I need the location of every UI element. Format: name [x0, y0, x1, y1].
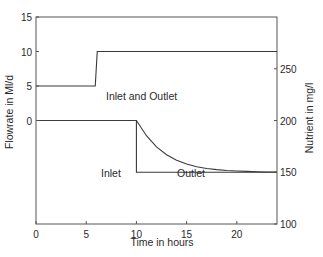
y-right-tick-label: 200 — [280, 116, 297, 127]
series-line-0 — [36, 52, 277, 87]
x-tick-label: 5 — [83, 229, 89, 240]
y-right-tick-label: 250 — [280, 64, 297, 75]
y-left-tick-label: 15 — [21, 12, 33, 23]
y-axis-label-right: Nutrient in mg/l — [303, 83, 315, 154]
x-axis-label: Time in hours — [130, 236, 193, 248]
ticks-layer: 05101520051015100150200250 — [21, 12, 297, 240]
dual-axis-line-chart: 05101520051015100150200250 Inlet and Out… — [0, 0, 323, 257]
annotation-outlet: Outlet — [177, 167, 205, 179]
y-left-tick-label: 5 — [26, 81, 32, 92]
annotation-inlet: Inlet — [101, 167, 121, 179]
y-left-tick-label: 10 — [21, 47, 33, 58]
y-axis-label-left: Flowrate in Ml/d — [3, 75, 15, 149]
y-right-tick-label: 150 — [280, 167, 297, 178]
x-tick-label: 0 — [33, 229, 39, 240]
series-line-2 — [136, 121, 277, 173]
annotation-inlet-and-outlet: Inlet and Outlet — [106, 90, 177, 102]
y-left-tick-label: 0 — [26, 116, 32, 127]
y-right-tick-label: 100 — [280, 219, 297, 230]
x-tick-label: 20 — [231, 229, 243, 240]
series-layer — [36, 52, 277, 173]
